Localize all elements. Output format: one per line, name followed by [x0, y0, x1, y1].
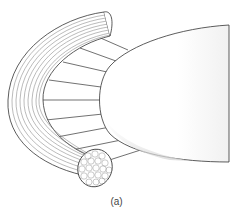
fiber-bundle-diagram	[0, 0, 233, 214]
figure-caption: (a)	[0, 196, 233, 207]
dome-body	[100, 25, 230, 162]
